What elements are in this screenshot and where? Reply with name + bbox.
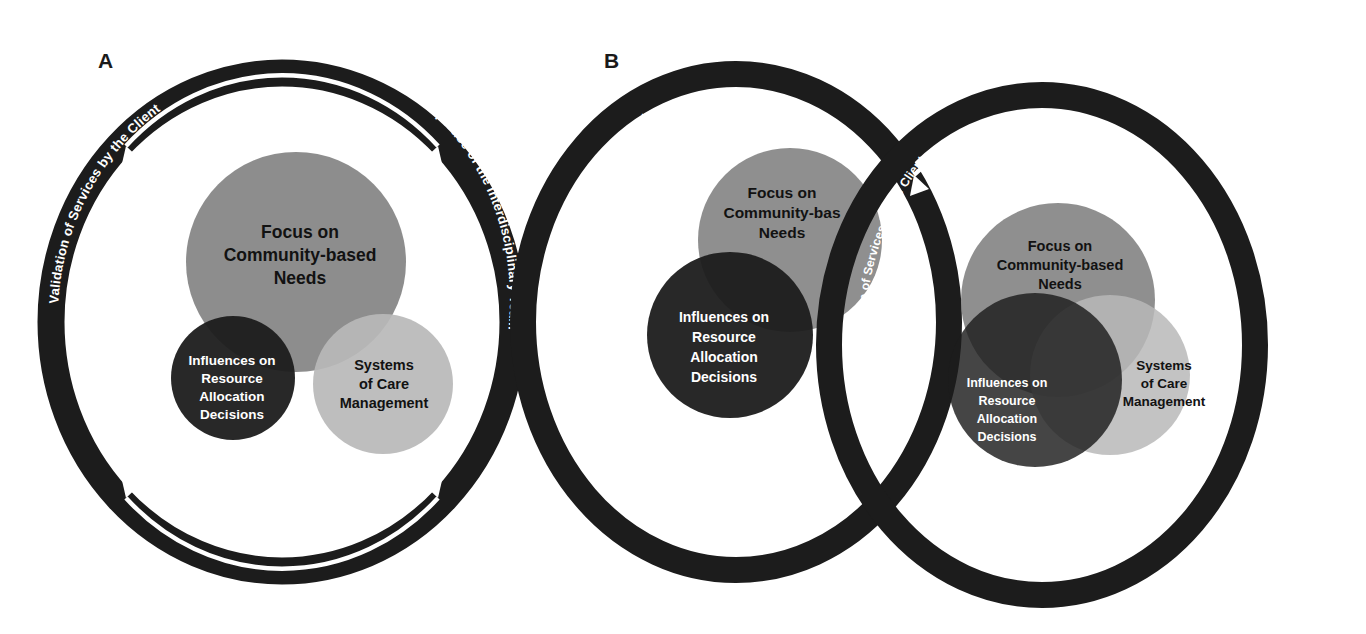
svg-text:Focus on: Focus on xyxy=(1028,238,1092,254)
svg-text:Influences on: Influences on xyxy=(967,376,1048,390)
svg-text:Needs: Needs xyxy=(1038,276,1082,292)
svg-text:Resource: Resource xyxy=(692,329,756,345)
svg-text:Management: Management xyxy=(1123,394,1206,409)
svg-text:Allocation: Allocation xyxy=(690,349,758,365)
panel-a-bubbles: Focus on Community-based Needs Influence… xyxy=(171,152,453,454)
panel-b-letter: B xyxy=(604,49,619,72)
svg-text:Community-bas: Community-bas xyxy=(723,204,840,221)
svg-text:Influences on: Influences on xyxy=(188,353,275,368)
svg-text:Systems: Systems xyxy=(1136,358,1192,373)
panel-a: A Validation of Services by the Client xyxy=(46,49,522,571)
svg-text:Community-based: Community-based xyxy=(224,245,377,265)
svg-text:Community-based: Community-based xyxy=(997,257,1124,273)
svg-text:of Care: of Care xyxy=(1141,376,1188,391)
svg-text:Allocation: Allocation xyxy=(199,389,264,404)
arrow-head-top-right xyxy=(851,153,870,174)
figure-canvas: A Validation of Services by the Client xyxy=(0,0,1366,634)
svg-text:Focus on: Focus on xyxy=(748,184,817,201)
svg-text:Resource: Resource xyxy=(201,371,263,386)
diagram-svg: A Validation of Services by the Client xyxy=(0,0,1366,634)
svg-text:Allocation: Allocation xyxy=(977,412,1037,426)
svg-text:Decisions: Decisions xyxy=(691,369,757,385)
svg-text:Focus on: Focus on xyxy=(261,222,339,242)
svg-text:Resource: Resource xyxy=(979,394,1036,408)
panel-a-letter: A xyxy=(98,49,113,72)
svg-text:Needs: Needs xyxy=(759,224,806,241)
panel-b-right-group: Validation of Services by the Client Exp… xyxy=(829,95,1311,595)
svg-text:of Care: of Care xyxy=(359,376,409,392)
arrow-head-bottom-left xyxy=(910,494,929,515)
svg-text:Systems: Systems xyxy=(354,357,414,373)
svg-text:Decisions: Decisions xyxy=(200,407,264,422)
panel-b: B Validation of Services by the Client xyxy=(523,49,1311,595)
svg-text:Management: Management xyxy=(340,395,429,411)
svg-text:Needs: Needs xyxy=(274,268,327,288)
arrow-head-bottom-right xyxy=(1157,494,1176,515)
svg-text:Decisions: Decisions xyxy=(977,430,1036,444)
arrow-head-top-right xyxy=(1157,175,1176,196)
svg-text:Influences on: Influences on xyxy=(679,309,769,325)
arrow-head-bottom-left xyxy=(604,470,623,491)
